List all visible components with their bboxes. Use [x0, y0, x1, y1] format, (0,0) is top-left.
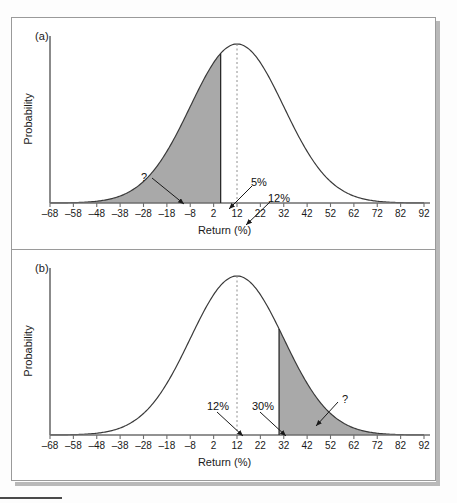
x-tick-label: 62 [341, 208, 367, 219]
panel-b: (b) Probability Return (%) –68–58–48–38–… [12, 250, 437, 482]
x-tick-label: 62 [341, 440, 367, 451]
shaded-region-a [50, 53, 221, 203]
x-tick-label: 52 [318, 440, 344, 451]
x-tick-label: –28 [131, 208, 157, 219]
figure-drop-shadow-bottom [15, 482, 440, 486]
x-tick-label: 82 [388, 208, 414, 219]
annotation-five-percent-a: 5% [251, 176, 267, 188]
x-tick-label: 2 [201, 440, 227, 451]
x-tick-label: 12 [224, 440, 250, 451]
x-tick-label: –8 [177, 440, 203, 451]
x-tick-label: –38 [107, 440, 133, 451]
x-tick-label: 2 [201, 208, 227, 219]
x-tick-label: 12 [224, 208, 250, 219]
x-tick-label: 52 [318, 208, 344, 219]
x-tick-label: 72 [364, 208, 390, 219]
panel-a: (a) Probability Return (%) –68–58–48–38–… [12, 18, 437, 250]
x-tick-label: –48 [84, 440, 110, 451]
x-tick-label: –18 [154, 440, 180, 451]
panel-divider [11, 249, 436, 250]
x-tick-label: 42 [294, 440, 320, 451]
annotation-arrow-twelve-percent-b [217, 412, 243, 436]
x-tick-label: 92 [411, 440, 437, 451]
x-tick-label: 32 [271, 440, 297, 451]
bottom-rule [0, 497, 62, 499]
panel-a-x-axis-label: Return (%) [12, 224, 437, 236]
annotation-question-mark-b: ? [342, 393, 348, 405]
x-tick-label: 22 [247, 208, 273, 219]
annotation-twelve-percent-a: 12% [268, 192, 290, 204]
x-tick-label: –68 [37, 440, 63, 451]
x-tick-label: –8 [177, 208, 203, 219]
annotation-twelve-percent-b: 12% [207, 400, 229, 412]
annotation-question-mark-a: ? [141, 171, 147, 183]
panel-b-x-axis-label: Return (%) [12, 456, 437, 468]
shaded-region-b [279, 329, 424, 435]
x-tick-label: 82 [388, 440, 414, 451]
x-tick-label: 72 [364, 440, 390, 451]
x-tick-label: –58 [60, 440, 86, 451]
x-tick-label: 42 [294, 208, 320, 219]
x-tick-label: –38 [107, 208, 133, 219]
x-tick-label: 32 [271, 208, 297, 219]
x-tick-label: 22 [247, 440, 273, 451]
x-tick-label: –58 [60, 208, 86, 219]
x-tick-label: 92 [411, 208, 437, 219]
x-tick-label: –18 [154, 208, 180, 219]
x-tick-label: –28 [131, 440, 157, 451]
annotation-arrow-five-percent-a [229, 186, 252, 209]
x-tick-label: –68 [37, 208, 63, 219]
x-tick-label: –48 [84, 208, 110, 219]
annotation-thirty-percent-b: 30% [252, 400, 274, 412]
